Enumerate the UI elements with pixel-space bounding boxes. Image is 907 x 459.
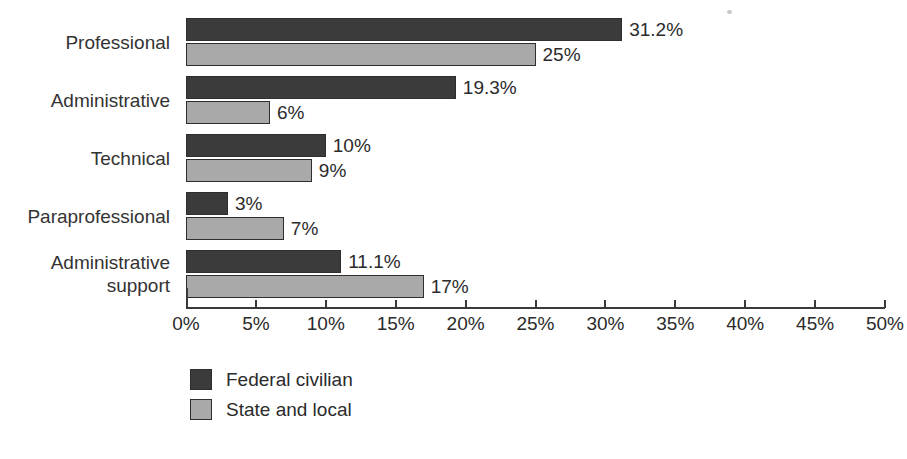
legend-swatch-state bbox=[190, 399, 212, 420]
bar-value-label: 31.2% bbox=[622, 18, 683, 41]
x-tick-label: 40% bbox=[726, 312, 764, 335]
bar-federal bbox=[186, 76, 456, 99]
bar-value-label: 6% bbox=[270, 101, 304, 124]
bar-value-label: 19.3% bbox=[456, 76, 517, 99]
x-tick bbox=[535, 300, 537, 308]
category-label: Administrative bbox=[51, 89, 170, 112]
bar-value-label: 17% bbox=[424, 275, 469, 298]
x-tick bbox=[814, 300, 816, 308]
category-label: Professional bbox=[65, 31, 170, 54]
category-axis-labels: ProfessionalAdministrativeTechnicalParap… bbox=[0, 18, 178, 307]
legend-label: State and local bbox=[226, 399, 352, 420]
bar-state bbox=[186, 275, 424, 298]
category-label: Technical bbox=[91, 147, 170, 170]
x-tick-label: 50% bbox=[866, 312, 904, 335]
legend-label: Federal civilian bbox=[226, 369, 353, 390]
x-tick-label: 35% bbox=[656, 312, 694, 335]
x-tick bbox=[325, 300, 327, 308]
bar-state bbox=[186, 159, 312, 182]
scan-speck bbox=[727, 10, 732, 14]
bar-group: 10%9% bbox=[186, 134, 885, 182]
bar-federal bbox=[186, 18, 622, 41]
bar-group: 19.3%6% bbox=[186, 76, 885, 124]
x-tick bbox=[744, 300, 746, 308]
bar-group: 31.2%25% bbox=[186, 18, 885, 66]
bar-value-label: 11.1% bbox=[341, 250, 400, 273]
x-tick bbox=[674, 300, 676, 308]
x-tick-label: 30% bbox=[586, 312, 624, 335]
x-tick-label: 5% bbox=[242, 312, 269, 335]
x-tick bbox=[465, 300, 467, 308]
category-label: Administrativesupport bbox=[0, 251, 170, 297]
x-tick-label: 0% bbox=[172, 312, 199, 335]
x-tick bbox=[255, 300, 257, 308]
chart-legend: Federal civilianState and local bbox=[190, 364, 353, 424]
category-label-line: Administrative bbox=[0, 251, 170, 274]
x-tick bbox=[604, 300, 606, 308]
bar-federal bbox=[186, 192, 228, 215]
x-tick bbox=[395, 300, 397, 308]
x-axis-left-cap bbox=[186, 288, 188, 308]
legend-swatch-federal bbox=[190, 369, 212, 390]
legend-item: Federal civilian bbox=[190, 364, 353, 394]
bar-state bbox=[186, 101, 270, 124]
bar-state bbox=[186, 43, 536, 66]
category-label-line: support bbox=[0, 274, 170, 297]
bar-value-label: 3% bbox=[228, 192, 262, 215]
bar-federal bbox=[186, 250, 341, 273]
legend-item: State and local bbox=[190, 394, 353, 424]
x-tick-label: 20% bbox=[447, 312, 485, 335]
bar-group: 11.1%17% bbox=[186, 250, 885, 298]
category-label: Paraprofessional bbox=[27, 205, 170, 228]
x-tick-label: 45% bbox=[796, 312, 834, 335]
x-tick bbox=[884, 300, 886, 308]
bar-state bbox=[186, 217, 284, 240]
bar-federal bbox=[186, 134, 326, 157]
x-tick-label: 25% bbox=[516, 312, 554, 335]
bar-group: 3%7% bbox=[186, 192, 885, 240]
plot-area: 31.2%25%19.3%6%10%9%3%7%11.1%17% bbox=[186, 18, 885, 307]
bar-value-label: 10% bbox=[326, 134, 371, 157]
bar-value-label: 9% bbox=[312, 159, 346, 182]
bar-value-label: 25% bbox=[536, 43, 581, 66]
x-tick-label: 15% bbox=[377, 312, 415, 335]
bar-value-label: 7% bbox=[284, 217, 318, 240]
bar-chart: ProfessionalAdministrativeTechnicalParap… bbox=[0, 0, 907, 459]
x-tick-label: 10% bbox=[307, 312, 345, 335]
